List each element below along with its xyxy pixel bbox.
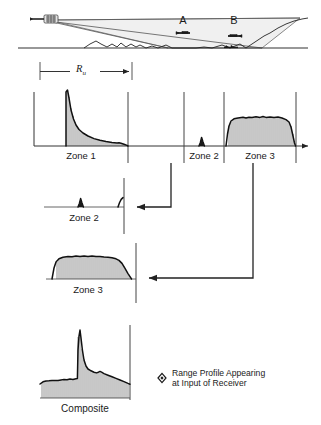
legend-line-1: Range Profile Appearing [172, 368, 265, 378]
zone2-target-spike [199, 138, 204, 147]
main-zone-1-label: Zone 1 [66, 150, 96, 161]
composite-label: Composite [61, 403, 109, 414]
zone3-connector-arrow [149, 163, 253, 278]
zone-2-detail-panel: Zone 2 [44, 178, 124, 234]
zone2-detail-target-spike [78, 199, 83, 207]
target-b-label: B [230, 14, 237, 26]
diamond-marker-icon [158, 373, 166, 382]
radar-platform-icon [30, 15, 58, 23]
main-range-profile-panel: Zone 1 Zone 2 Zone 3 [34, 90, 308, 163]
legend: Range Profile Appearing at Input of Rece… [158, 368, 265, 388]
composite-envelope-curve [40, 330, 130, 384]
diagram-canvas: A B Ru [0, 0, 321, 425]
zone-3-detail-panel: Zone 3 [46, 243, 136, 303]
terrain-profile-near [84, 41, 146, 48]
zone2-connector-arrow [137, 163, 171, 207]
main-zone-2-label: Zone 2 [189, 150, 219, 161]
composite-panel: Composite [40, 325, 130, 414]
radar-beam-footprint [48, 18, 300, 48]
zone3-hatch-fill [229, 117, 293, 146]
zone1-hatch-fill [67, 92, 127, 146]
legend-line-2: at Input of Receiver [172, 378, 247, 388]
scene-geometry: A B [18, 14, 308, 48]
target-a-label: A [179, 14, 187, 26]
zone2-detail-edge-rise [118, 198, 123, 207]
zone1-envelope-curve [66, 90, 128, 146]
connector-arrows [137, 163, 253, 278]
zone3-detail-envelope-curve [52, 256, 132, 279]
main-zone-3-label: Zone 3 [245, 150, 275, 161]
zone-2-detail-label: Zone 2 [69, 212, 99, 223]
radar-range-ambiguity-figure: A B Ru [0, 0, 321, 425]
unambiguous-range-dimension: Ru [40, 62, 132, 80]
zone-3-detail-label: Zone 3 [73, 284, 103, 295]
